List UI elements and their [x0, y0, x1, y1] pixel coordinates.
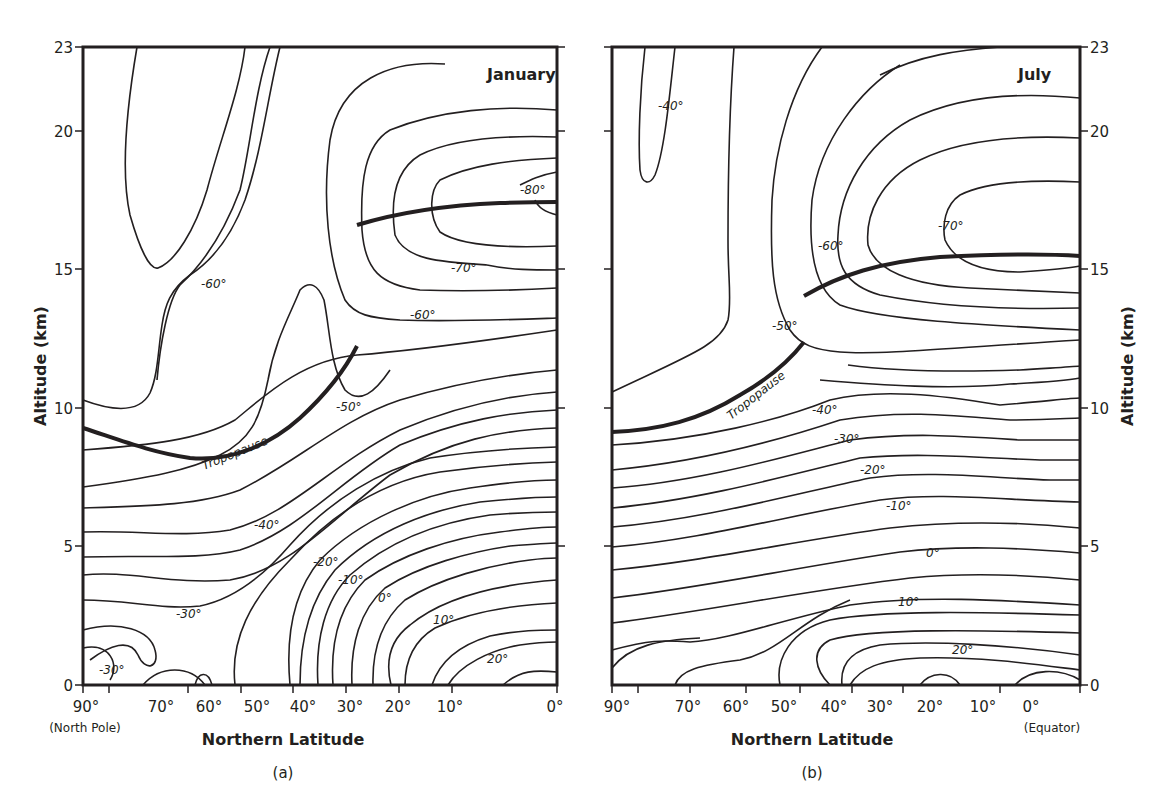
panel-january: 0 5 10 15 20 23 Altitude (km) 90° 70° 60…: [31, 39, 565, 782]
tropopause-label-january: Tropopause: [200, 434, 270, 473]
x-tick-90-b: 90°: [604, 698, 631, 716]
x-axis-title-july: Northern Latitude: [731, 730, 894, 749]
tropopause-line-january-low: [83, 346, 357, 459]
panel-july: 0 5 10 15 20 23 Altitude (km) 90° 70° 60…: [604, 39, 1137, 782]
contour-label: -20°: [860, 463, 886, 477]
y-tick-10-right: 10: [1090, 400, 1109, 418]
panel-letter-b: (b): [801, 764, 822, 782]
contour-label: 10°: [433, 613, 454, 627]
contour-label: -40°: [658, 99, 684, 113]
y-tick-10: 10: [54, 400, 73, 418]
y-axis-title-january: Altitude (km): [31, 306, 50, 426]
month-label-january: January: [486, 65, 556, 84]
temperature-cross-section-figure: 0 5 10 15 20 23 Altitude (km) 90° 70° 60…: [0, 0, 1168, 809]
contour-label: -40°: [254, 518, 280, 532]
y-tick-20-right: 20: [1090, 123, 1109, 141]
x-tick-60: 60°: [196, 698, 223, 716]
x-tick-30-b: 30°: [867, 698, 894, 716]
contour-label: 0°: [378, 591, 392, 605]
contour-label: -60°: [201, 277, 227, 291]
y-tick-15-right: 15: [1090, 261, 1109, 279]
y-tick-0-right: 0: [1090, 677, 1100, 695]
x-tick-20: 20°: [385, 698, 412, 716]
y-tick-15: 15: [54, 261, 73, 279]
contour-label: -70°: [938, 219, 964, 233]
contour-label: -40°: [812, 403, 838, 417]
x-tick-30: 30°: [337, 698, 364, 716]
plot-frame-january: [83, 47, 557, 685]
contour-label: -10°: [338, 573, 364, 587]
contour-label: -60°: [818, 239, 844, 253]
january-isotherms: [83, 47, 557, 685]
x-tick-70: 70°: [148, 698, 175, 716]
x-tick-10-b: 10°: [970, 698, 997, 716]
tropopause-line-january-high: [357, 202, 557, 225]
tropopause-label-july: Tropopause: [724, 368, 788, 422]
x-tick-50-b: 50°: [771, 698, 798, 716]
north-pole-note: (North Pole): [49, 721, 121, 735]
month-label-july: July: [1017, 65, 1052, 84]
x-tick-20-b: 20°: [917, 698, 944, 716]
plot-frame-july: [612, 47, 1080, 685]
contour-label: 10°: [898, 595, 919, 609]
y-tick-5-right: 5: [1090, 538, 1100, 556]
y-tick-0: 0: [63, 677, 73, 695]
x-tick-40-b: 40°: [821, 698, 848, 716]
x-tick-90: 90°: [73, 698, 100, 716]
x-tick-0-b: 0°: [1022, 698, 1039, 716]
contour-label: -60°: [410, 308, 436, 322]
contour-label: -50°: [336, 400, 362, 414]
contour-label: -20°: [313, 555, 339, 569]
contour-label: 0°: [926, 546, 940, 560]
x-axis-title-january: Northern Latitude: [202, 730, 365, 749]
y-tick-20: 20: [54, 123, 73, 141]
x-tick-40: 40°: [290, 698, 317, 716]
contour-label: -30°: [99, 663, 125, 677]
contour-label: 20°: [952, 643, 973, 657]
contour-label: -30°: [834, 432, 860, 446]
contour-label: -50°: [772, 319, 798, 333]
contour-label: -80°: [520, 183, 546, 197]
july-isotherms: [612, 47, 1080, 685]
january-y-axis: 0 5 10 15 20 23 Altitude (km): [31, 39, 565, 695]
x-tick-0: 0°: [546, 698, 563, 716]
contour-label: 20°: [487, 652, 508, 666]
x-tick-10: 10°: [437, 698, 464, 716]
january-x-axis: 90° 70° 60° 50° 40° 30° 20° 10° 0° (Nort…: [49, 685, 563, 782]
contour-label: -30°: [176, 607, 202, 621]
panel-letter-a: (a): [273, 764, 294, 782]
x-tick-60-b: 60°: [723, 698, 750, 716]
equator-note: (Equator): [1024, 721, 1081, 735]
y-tick-23: 23: [54, 39, 73, 57]
contour-label: -10°: [886, 499, 912, 513]
x-tick-50: 50°: [244, 698, 271, 716]
contour-label: -70°: [451, 261, 477, 275]
y-axis-title-july: Altitude (km): [1118, 306, 1137, 426]
y-tick-23-right: 23: [1090, 39, 1109, 57]
july-x-axis: 90° 70° 60° 50° 40° 30° 20° 10° 0° (Equa…: [604, 685, 1081, 782]
x-tick-70-b: 70°: [675, 698, 702, 716]
tropopause-line-july-high: [804, 255, 1080, 296]
july-contour-labels: July -40° -50° -60° -70° -40° -30° -20° …: [658, 65, 1052, 657]
y-tick-5: 5: [63, 538, 73, 556]
